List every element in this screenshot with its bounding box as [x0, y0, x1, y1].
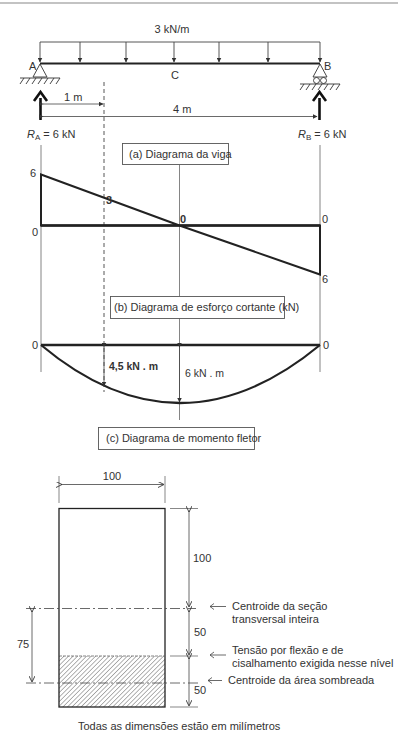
pin-support-a	[20, 64, 60, 84]
note-centroid-full-1: Centroide da seção	[232, 600, 327, 612]
shear-diagram: 6 0 3 0 0 6 (b) Diagrama de esforço cort…	[30, 167, 328, 319]
note-stress-2: cisalhamento exigida nesse nível	[232, 657, 393, 669]
point-a-label: A	[29, 60, 37, 72]
cross-section: 100 100 50 50 75 Centroide da seção tra	[17, 470, 393, 732]
shear-left-zero: 0	[32, 226, 38, 238]
footer-note: Todas as dimensões estão em milímetros	[78, 720, 281, 732]
shear-mid-zero: 0	[180, 213, 186, 225]
diagram-canvas: 3 kN/m A C B	[0, 0, 398, 736]
note-stress-1: Tensão por flexão e de	[232, 644, 343, 656]
lower-dim: 50	[194, 684, 206, 696]
reaction-b-label: RB = 6 kN	[298, 128, 347, 142]
load-label: 3 kN/m	[155, 23, 190, 35]
point-c-label: C	[171, 69, 179, 81]
shear-left-top: 6	[30, 167, 36, 179]
shear-right-zero: 0	[322, 213, 328, 225]
mid-dim: 50	[194, 626, 206, 638]
dim-1m: 1 m	[64, 91, 82, 103]
moment-right-zero: 0	[323, 339, 329, 351]
width-dim: 100	[103, 470, 121, 482]
guide-lines	[41, 145, 320, 420]
shear-right-bottom: 6	[322, 273, 328, 285]
point-b-label: B	[324, 60, 331, 72]
note-centroid-full-2: transversal inteira	[232, 613, 320, 625]
reaction-arrow-b	[313, 92, 326, 120]
reaction-arrow-a	[34, 92, 47, 120]
shaded-area	[59, 656, 165, 707]
caption-b: (b) Diagrama de esforço cortante (kN)	[114, 301, 299, 313]
moment-at-mid: 6 kN . m	[185, 367, 224, 379]
dim-4m: 4 m	[173, 103, 191, 115]
shear-at-1m: 3	[106, 194, 112, 206]
caption-a: (a) Diagrama da viga	[129, 148, 233, 160]
roller-support-b	[300, 64, 340, 90]
beam-diagram: 3 kN/m A C B	[20, 23, 347, 392]
caption-c: (c) Diagrama de momento fletor	[106, 432, 262, 444]
moment-diagram: 0 0 4,5 kN . m 6 kN . m (c) Diagrama de …	[32, 339, 329, 450]
note-centroid-shaded: Centroide da área sombreada	[228, 674, 375, 686]
moment-left-zero: 0	[32, 339, 38, 351]
reaction-a-label: RA = 6 kN	[27, 128, 76, 142]
left-dim: 75	[17, 638, 29, 650]
load-arrows	[40, 42, 320, 62]
upper-dim: 100	[193, 552, 211, 564]
moment-at-1m: 4,5 kN . m	[109, 360, 158, 372]
figure: 3 kN/m A C B	[0, 0, 398, 736]
